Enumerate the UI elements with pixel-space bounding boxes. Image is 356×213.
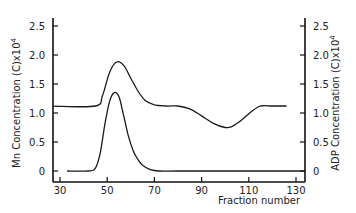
left-y-axis-title: Mn Concentration (C)x104 bbox=[10, 37, 22, 168]
x-tick-label: 90 bbox=[195, 185, 208, 196]
left-y-tick-label: 0.5 bbox=[29, 137, 45, 148]
left-y-tick-label: 1.0 bbox=[29, 108, 45, 119]
curves bbox=[53, 62, 305, 172]
right-y-tick-label: 1.0 bbox=[313, 108, 329, 119]
x-tick-label: 50 bbox=[101, 185, 114, 196]
x-axis-title: Fraction number bbox=[218, 195, 301, 206]
chart: 000.50.51.01.01.51.52.02.02.52.530507090… bbox=[0, 0, 356, 213]
left-y-tick-label: 2.0 bbox=[29, 50, 45, 61]
right-y-tick-label: 0 bbox=[313, 166, 319, 177]
left-y-tick-label: 1.5 bbox=[29, 79, 45, 90]
right-y-axis-title: ADP Concentration (C)x104 bbox=[329, 35, 341, 171]
right-y-tick-label: 1.5 bbox=[313, 79, 329, 90]
x-tick-label: 70 bbox=[148, 185, 161, 196]
right-y-tick-label: 2.0 bbox=[313, 50, 329, 61]
mn-curve bbox=[67, 92, 305, 171]
right-y-tick-label: 2.5 bbox=[313, 21, 329, 32]
left-y-tick-label: 2.5 bbox=[29, 21, 45, 32]
left-y-tick-label: 0 bbox=[39, 166, 45, 177]
right-y-tick-label: 0.5 bbox=[313, 137, 329, 148]
adp-curve bbox=[53, 62, 287, 128]
x-tick-label: 30 bbox=[54, 185, 67, 196]
